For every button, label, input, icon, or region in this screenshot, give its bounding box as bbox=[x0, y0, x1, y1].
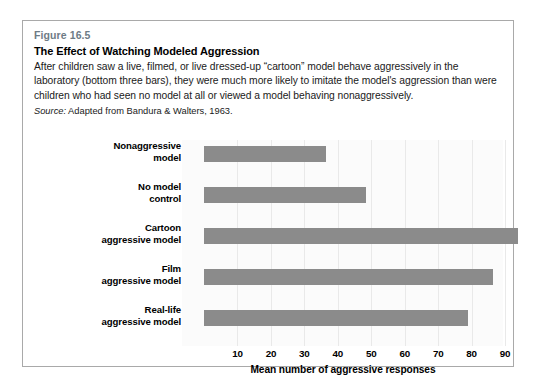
figure-title: The Effect of Watching Modeled Aggressio… bbox=[34, 43, 504, 59]
x-tick-label: 50 bbox=[366, 348, 377, 359]
figure-number: Figure 16.5 bbox=[34, 28, 504, 42]
category-label-line2: aggressive model bbox=[53, 316, 181, 328]
x-axis-title: Mean number of aggressive responses bbox=[182, 364, 504, 375]
category-label-line2: aggressive model bbox=[53, 234, 181, 246]
bar-chart: NonaggressivemodelNo modelcontrolCartoon… bbox=[23, 126, 513, 366]
figure-source: Source: Adapted from Bandura & Walters, … bbox=[34, 105, 504, 118]
bar bbox=[204, 269, 493, 285]
category-axis-labels: NonaggressivemodelNo modelcontrolCartoon… bbox=[53, 140, 181, 332]
figure-panel: Figure 16.5 The Effect of Watching Model… bbox=[22, 20, 514, 367]
category-label-line1: Cartoon bbox=[145, 222, 181, 233]
bar bbox=[204, 310, 468, 326]
category-label-line1: No model bbox=[138, 181, 181, 192]
category-label-line1: Real-life bbox=[145, 304, 181, 315]
x-tick-label: 70 bbox=[433, 348, 444, 359]
category-label: Nonaggressivemodel bbox=[53, 140, 181, 164]
x-tick-label: 80 bbox=[466, 348, 477, 359]
category-label: Filmaggressive model bbox=[53, 263, 181, 287]
category-label: Real-lifeaggressive model bbox=[53, 304, 181, 328]
category-label-line1: Film bbox=[162, 263, 181, 274]
category-label-line2: aggressive model bbox=[53, 275, 181, 287]
category-label: Cartoonaggressive model bbox=[53, 222, 181, 246]
plot-area bbox=[182, 140, 503, 346]
figure-description: After children saw a live, filmed, or li… bbox=[34, 60, 504, 103]
x-tick-label: 10 bbox=[232, 348, 243, 359]
category-label-line1: Nonaggressive bbox=[114, 140, 181, 151]
x-tick-label: 60 bbox=[399, 348, 410, 359]
figure-caption-block: Figure 16.5 The Effect of Watching Model… bbox=[34, 28, 504, 118]
x-tick-label: 30 bbox=[299, 348, 310, 359]
source-label: Source: bbox=[34, 106, 66, 116]
x-tick-label: 20 bbox=[266, 348, 277, 359]
bar bbox=[204, 187, 366, 203]
category-label: No modelcontrol bbox=[53, 181, 181, 205]
category-label-line2: control bbox=[53, 193, 181, 205]
bar bbox=[204, 146, 326, 162]
category-label-line2: model bbox=[53, 152, 181, 164]
x-axis-ticks: 102030405060708090 bbox=[182, 348, 512, 362]
source-text: Adapted from Bandura & Walters, 1963. bbox=[66, 106, 233, 116]
bar bbox=[204, 228, 518, 244]
x-tick-label: 40 bbox=[333, 348, 344, 359]
x-tick-label: 90 bbox=[500, 348, 511, 359]
